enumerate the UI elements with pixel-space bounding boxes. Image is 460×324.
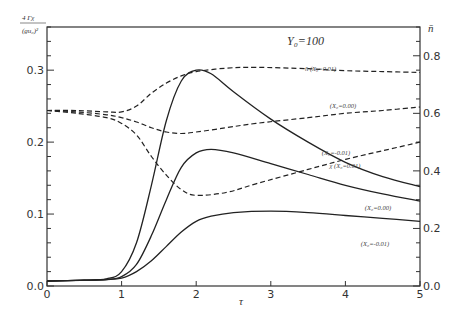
labels: 4 Γχ (gu₀)² n̄ τ Y₀=100 (20, 14, 434, 307)
x-tick-label: 2 (193, 288, 200, 301)
y-right-tick-label: 0.6 (423, 107, 441, 120)
x-tick-label: 0 (44, 288, 51, 301)
y-left-label-denominator: (gu₀)² (22, 27, 39, 35)
plot-frame (47, 27, 420, 286)
y-left-label-numerator: 4 Γχ (22, 14, 35, 22)
series-line-chi-x-0-00 (47, 149, 420, 281)
series-annotation: (X₀=0.00) (365, 204, 391, 212)
series-annotation: (X₀=-0.01) (322, 149, 351, 157)
annotation-y0: Y₀=100 (287, 34, 324, 48)
y-right-tick-label: 0.2 (423, 222, 441, 235)
curves: χ (X₀=0.01)(X₀=0.00)(X₀=-0.01)n̄ (X₀=0.0… (47, 65, 420, 281)
axes: 0123450.00.10.20.30.00.20.40.60.8 (27, 27, 441, 301)
x-axis-label: τ (239, 295, 244, 307)
y-right-tick-label: 0.0 (423, 280, 441, 293)
x-tick-label: 3 (267, 288, 274, 301)
series-annotation: χ (X₀=0.01) (329, 162, 361, 170)
y-left-tick-label: 0.3 (27, 64, 45, 77)
y-left-tick-label: 0.1 (27, 208, 45, 221)
series-annotation: (X₀=0.00) (330, 102, 356, 110)
series-line-nbar-x-0-01 (47, 67, 420, 112)
chart: 0123450.00.10.20.30.00.20.40.60.8 χ (X₀=… (0, 0, 460, 324)
y-left-tick-label: 0.2 (27, 136, 45, 149)
y-right-label: n̄ (428, 22, 434, 34)
series-annotation: (X₀=-0.01) (361, 240, 390, 248)
series-line-nbar-x-0-00 (47, 107, 420, 134)
y-left-tick-label: 0.0 (27, 280, 45, 293)
x-tick-label: 4 (342, 288, 349, 301)
series-line-chi-x-0-01 (47, 70, 420, 281)
y-right-tick-label: 0.8 (423, 50, 441, 63)
series-annotation: n̄ (X₀=0.01) (305, 65, 336, 73)
x-tick-label: 1 (118, 288, 125, 301)
y-right-tick-label: 0.4 (423, 165, 441, 178)
